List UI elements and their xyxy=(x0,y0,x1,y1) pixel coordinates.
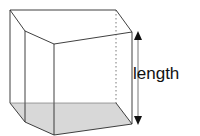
shaded-base-face xyxy=(10,103,132,135)
top-face-edges xyxy=(10,10,132,44)
length-label: length xyxy=(133,64,179,84)
arrow-down-icon xyxy=(134,116,142,125)
arrow-up-icon xyxy=(134,31,142,40)
